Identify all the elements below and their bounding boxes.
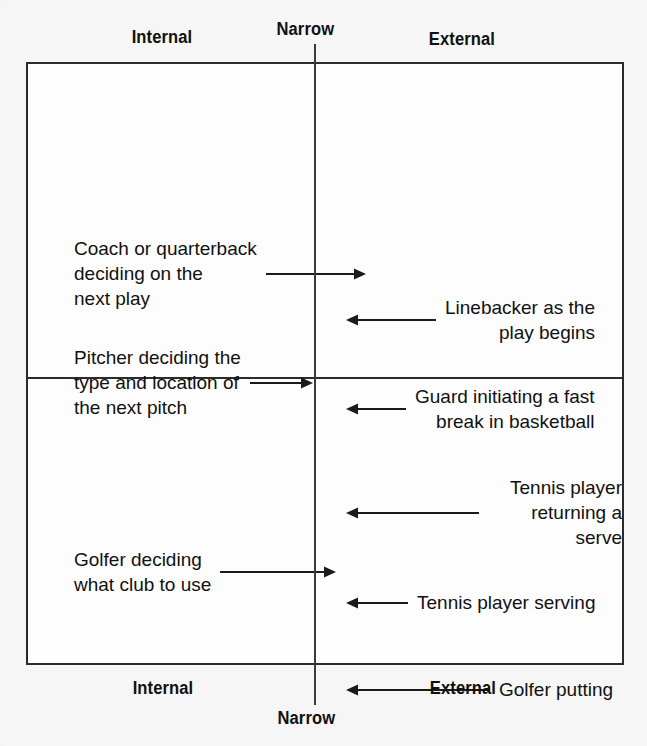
arrow-left-icon	[346, 313, 436, 327]
entry-guard-fast-break: Guard initiating a fast break in basketb…	[346, 384, 595, 434]
axis-label-internal-top: Internal	[132, 27, 193, 48]
entry-pitcher-label: Pitcher deciding the type and location o…	[74, 345, 241, 420]
axis-label-narrow-bottom: Narrow	[278, 708, 336, 729]
entry-coach-quarterback-label: Coach or quarterback deciding on the nex…	[74, 236, 257, 311]
axis-label-internal-bottom: Internal	[133, 678, 194, 699]
entry-pitcher: Pitcher deciding the type and location o…	[74, 345, 313, 420]
axis-label-narrow-top: Narrow	[277, 19, 335, 40]
arrow-left-icon	[346, 402, 406, 416]
entry-tennis-returning-serve: Tennis player returning a serve	[346, 475, 622, 550]
diagram-page: Internal Narrow External Coach or quarte…	[0, 0, 647, 746]
entry-golfer-club-label: Golfer deciding what club to use	[74, 547, 211, 597]
matrix-box: Coach or quarterback deciding on the nex…	[26, 62, 624, 665]
entry-golfer-club: Golfer deciding what club to use	[74, 547, 336, 597]
axis-label-external-top: External	[429, 29, 495, 50]
entry-guard-fast-break-label: Guard initiating a fast break in basketb…	[415, 384, 595, 434]
axis-label-external-bottom: External	[430, 678, 496, 699]
entry-tennis-serving: Tennis player serving	[346, 590, 595, 615]
arrow-right-icon	[250, 376, 313, 390]
entry-linebacker: Linebacker as the play begins	[346, 295, 595, 345]
arrow-right-icon	[220, 565, 336, 579]
arrow-left-icon	[346, 596, 408, 610]
entry-golfer-putting-label: Golfer putting	[499, 677, 613, 702]
entry-coach-quarterback: Coach or quarterback deciding on the nex…	[74, 236, 366, 311]
entry-tennis-serving-label: Tennis player serving	[417, 590, 595, 615]
vertical-axis-line	[314, 44, 316, 705]
entry-linebacker-label: Linebacker as the play begins	[445, 295, 595, 345]
entry-tennis-returning-serve-label: Tennis player returning a serve	[488, 475, 622, 550]
arrow-left-icon	[346, 506, 479, 520]
